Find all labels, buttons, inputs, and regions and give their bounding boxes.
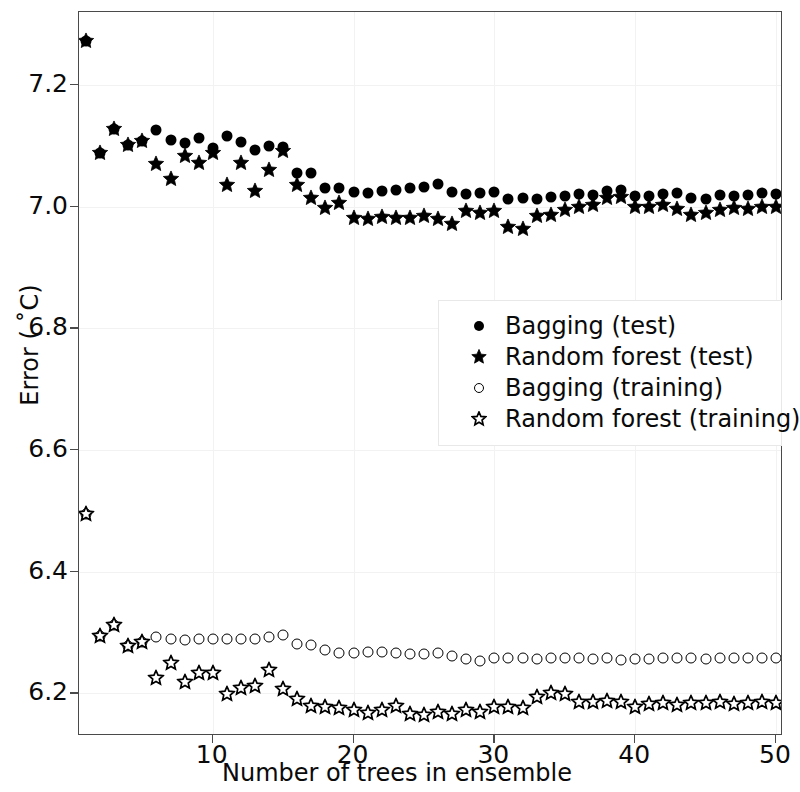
legend-item-label: Bagging (training) bbox=[505, 375, 723, 401]
data-point bbox=[120, 136, 137, 153]
gridline-horizontal bbox=[79, 693, 781, 694]
data-point bbox=[221, 634, 232, 645]
data-point bbox=[275, 680, 292, 697]
data-point bbox=[359, 704, 376, 721]
data-point bbox=[362, 647, 373, 658]
data-point bbox=[641, 696, 658, 713]
data-point bbox=[584, 693, 601, 710]
data-point bbox=[176, 673, 193, 690]
data-point bbox=[613, 188, 630, 205]
legend-item-label: Random forest (test) bbox=[505, 344, 754, 370]
legend-item-label: Random forest (training) bbox=[505, 406, 800, 432]
data-point bbox=[134, 633, 151, 650]
data-point bbox=[447, 650, 458, 661]
data-point bbox=[362, 187, 373, 198]
data-point bbox=[250, 145, 261, 156]
data-point bbox=[165, 633, 176, 644]
data-point bbox=[306, 167, 317, 178]
data-point bbox=[475, 187, 486, 198]
data-point bbox=[109, 620, 120, 631]
data-point bbox=[728, 653, 739, 664]
x-tick-mark bbox=[493, 735, 494, 743]
data-point bbox=[587, 190, 598, 201]
data-point bbox=[756, 188, 767, 199]
data-point bbox=[599, 189, 616, 206]
data-point bbox=[289, 176, 306, 193]
data-point bbox=[672, 187, 683, 198]
data-point bbox=[570, 693, 587, 710]
data-point bbox=[176, 147, 193, 164]
legend-item-label: Bagging (test) bbox=[505, 313, 676, 339]
data-point bbox=[714, 653, 725, 664]
data-point bbox=[387, 209, 404, 226]
data-point bbox=[376, 185, 387, 196]
data-point bbox=[756, 652, 767, 663]
data-point bbox=[587, 653, 598, 664]
legend-marker-open-circle-icon bbox=[453, 383, 505, 393]
data-point bbox=[331, 700, 348, 717]
data-point bbox=[584, 197, 601, 214]
data-point bbox=[472, 703, 489, 720]
data-point bbox=[767, 694, 782, 711]
data-point bbox=[162, 171, 179, 188]
data-point bbox=[151, 632, 162, 643]
data-point bbox=[320, 183, 331, 194]
data-point bbox=[404, 182, 415, 193]
data-point bbox=[278, 630, 289, 641]
data-point bbox=[742, 189, 753, 200]
data-point bbox=[390, 184, 401, 195]
data-point bbox=[711, 201, 728, 218]
data-point bbox=[711, 693, 728, 710]
data-point bbox=[418, 648, 429, 659]
data-point bbox=[559, 653, 570, 664]
data-point bbox=[179, 634, 190, 645]
data-point bbox=[672, 653, 683, 664]
data-point bbox=[602, 652, 613, 663]
data-point bbox=[78, 33, 95, 50]
data-point bbox=[444, 706, 461, 723]
legend-item[interactable]: Bagging (training) bbox=[439, 372, 781, 403]
data-point bbox=[404, 649, 415, 660]
data-point bbox=[433, 648, 444, 659]
data-point bbox=[458, 702, 475, 719]
data-point bbox=[700, 193, 711, 204]
legend-item[interactable]: Random forest (training) bbox=[439, 403, 781, 434]
data-point bbox=[95, 631, 106, 642]
data-point bbox=[218, 176, 235, 193]
data-point bbox=[250, 633, 261, 644]
data-point bbox=[373, 702, 390, 719]
data-point bbox=[193, 132, 204, 143]
x-tick-mark bbox=[353, 735, 354, 743]
chart-legend: Bagging (test)Random forest (test)Baggin… bbox=[438, 300, 782, 446]
data-point bbox=[725, 696, 742, 713]
data-point bbox=[278, 142, 289, 153]
legend-item[interactable]: Bagging (test) bbox=[439, 310, 781, 341]
data-point bbox=[401, 209, 418, 226]
data-point bbox=[616, 654, 627, 665]
legend-item[interactable]: Random forest (test) bbox=[439, 341, 781, 372]
data-point bbox=[753, 693, 770, 710]
data-point bbox=[517, 193, 528, 204]
gridline-horizontal bbox=[79, 450, 781, 451]
data-point bbox=[373, 209, 390, 226]
data-point bbox=[444, 216, 461, 233]
data-point bbox=[92, 628, 109, 645]
data-point bbox=[148, 156, 165, 173]
data-point bbox=[134, 132, 151, 149]
gridline-horizontal bbox=[79, 572, 781, 573]
data-point bbox=[123, 139, 134, 150]
data-point bbox=[514, 700, 531, 717]
data-point bbox=[81, 36, 92, 47]
data-point bbox=[264, 140, 275, 151]
data-point bbox=[447, 187, 458, 198]
data-point bbox=[644, 653, 655, 664]
data-point bbox=[106, 617, 123, 634]
data-point bbox=[81, 508, 92, 519]
data-point bbox=[725, 199, 742, 216]
data-point bbox=[387, 698, 404, 715]
data-point bbox=[475, 656, 486, 667]
data-point bbox=[95, 147, 106, 158]
data-point bbox=[739, 695, 756, 712]
data-point bbox=[658, 188, 669, 199]
gridline-vertical bbox=[213, 12, 214, 734]
